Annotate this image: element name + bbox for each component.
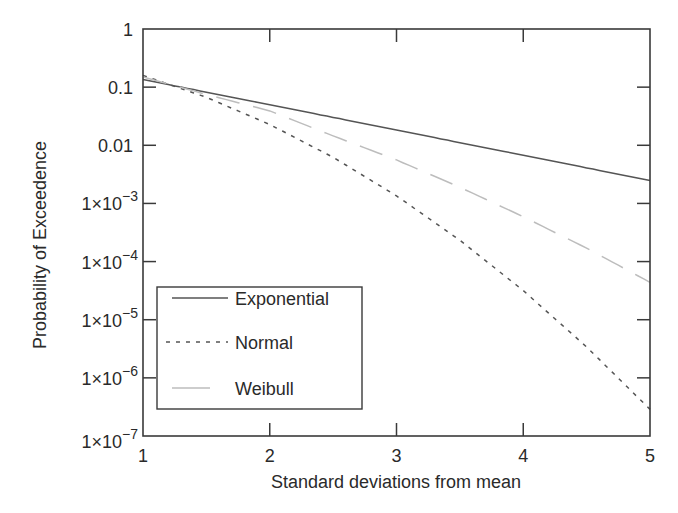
y-tick-label: 0.01 [98, 136, 133, 156]
y-tick-label: 1 [123, 20, 133, 40]
legend-label-normal: Normal [235, 333, 293, 353]
x-tick-label: 2 [265, 446, 275, 466]
y-tick-label: 0.1 [108, 78, 133, 98]
x-tick-label: 5 [645, 446, 655, 466]
y-tick-label: 1×10−5 [81, 305, 138, 331]
x-tick-label: 1 [138, 446, 148, 466]
series-exponential [143, 80, 650, 181]
y-tick-label: 1×10−4 [81, 247, 138, 273]
y-tick-label: 1×10−6 [81, 363, 138, 389]
x-tick-label: 4 [518, 446, 528, 466]
legend: Exponential Normal Weibull [157, 287, 362, 409]
y-tick-label: 1×10−7 [81, 426, 138, 452]
chart: 10.10.011×10−31×10−41×10−51×10−61×10−7 1… [0, 0, 678, 513]
y-axis-title: Probability of Exceedence [30, 141, 50, 349]
x-tick-label: 3 [391, 446, 401, 466]
legend-label-exponential: Exponential [235, 289, 329, 309]
series-weibull [143, 77, 650, 282]
y-tick-label: 1×10−3 [81, 188, 138, 214]
legend-label-weibull: Weibull [235, 379, 294, 399]
x-axis-title: Standard deviations from mean [271, 472, 521, 492]
